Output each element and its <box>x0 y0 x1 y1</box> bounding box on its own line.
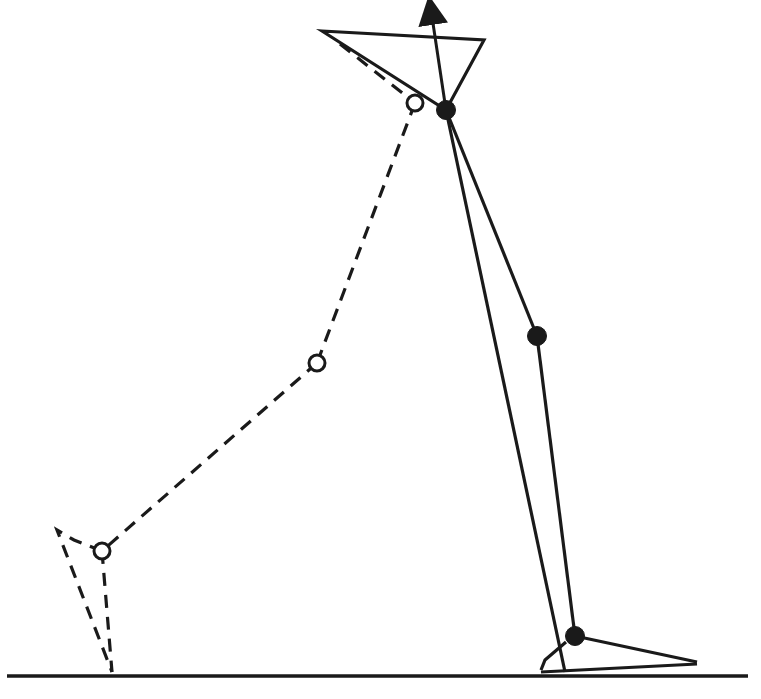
solid-thigh <box>446 110 537 336</box>
pelvis-triangle <box>322 10 484 110</box>
dashed-shank <box>102 363 317 551</box>
joint-markers <box>94 95 585 646</box>
solid-hip-to-heel <box>446 110 565 672</box>
arrow-up-icon <box>431 10 446 110</box>
dashed-thigh <box>317 103 415 363</box>
gait-diagram <box>0 0 761 699</box>
dashed-pelvis-edge <box>340 44 415 103</box>
solid-foot-top <box>575 636 697 662</box>
swing-leg-dashed <box>57 44 415 672</box>
solid-shank <box>537 336 575 636</box>
solid-hip-joint <box>437 101 456 120</box>
solid-ankle-joint <box>566 627 585 646</box>
solid-knee-joint <box>528 327 547 346</box>
dashed-hip-joint <box>407 95 423 111</box>
stance-leg-solid <box>446 110 697 672</box>
dashed-ankle-joint <box>94 543 110 559</box>
dashed-knee-joint <box>309 355 325 371</box>
pelvis-triangle <box>322 31 484 110</box>
